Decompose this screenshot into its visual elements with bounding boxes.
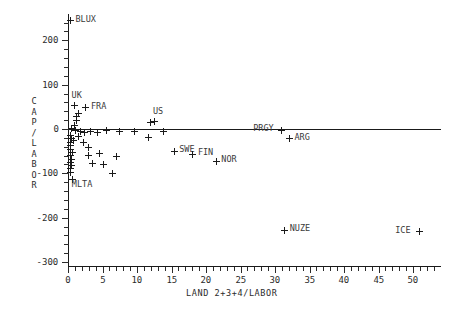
y-axis-tick-minor [64, 31, 69, 32]
x-axis-tick-minor [96, 267, 97, 271]
x-axis-tick-major [275, 267, 276, 273]
data-point [131, 128, 138, 135]
x-axis-tick-minor [220, 267, 221, 271]
data-point-nuze [281, 227, 288, 234]
x-axis-tick-minor [192, 267, 193, 271]
x-axis-tick-minor [234, 267, 235, 271]
x-axis-tick-major [137, 267, 138, 273]
data-point-swe [171, 148, 178, 155]
x-axis-tick-minor [434, 267, 435, 271]
x-axis-tick-minor [420, 267, 421, 271]
data-point-blux [67, 17, 74, 24]
x-axis-tick-minor [247, 267, 248, 271]
y-axis-tick-minor [64, 191, 69, 192]
y-axis-tick-minor [64, 253, 69, 254]
y-axis-tick-major [62, 262, 69, 263]
data-point-label: PRGY [253, 123, 273, 133]
y-axis-tick-major [62, 218, 69, 219]
x-axis-tick-minor [178, 267, 179, 271]
y-axis-tick-minor [64, 111, 69, 112]
data-point-arg [286, 135, 293, 142]
y-axis-tick-major [62, 40, 69, 41]
x-axis-tick-minor [144, 267, 145, 271]
x-axis-tick-major [68, 267, 69, 273]
x-axis-tick-major [241, 267, 242, 273]
x-axis-tick-minor [392, 267, 393, 271]
x-axis-tick-label: 45 [373, 275, 384, 285]
data-point [85, 144, 92, 151]
x-axis-tick-minor [351, 267, 352, 271]
x-axis-tick-minor [123, 267, 124, 271]
y-axis-title-char: C [28, 96, 40, 107]
data-point [103, 127, 110, 134]
y-axis-tick-label: 0 [53, 124, 58, 134]
y-axis-tick-minor [64, 200, 69, 201]
x-axis-tick-minor [75, 267, 76, 271]
y-axis-tick-minor [64, 209, 69, 210]
data-point [85, 152, 92, 159]
x-axis-tick-minor [268, 267, 269, 271]
x-axis-tick-minor [337, 267, 338, 271]
y-axis-tick-minor [64, 94, 69, 95]
x-axis-tick-major [103, 267, 104, 273]
x-axis-tick-minor [130, 267, 131, 271]
y-axis-tick-minor [64, 49, 69, 50]
x-axis-tick-minor [109, 267, 110, 271]
x-axis-tick-minor [151, 267, 152, 271]
x-axis-title: LAND 2+3+4/LABOR [186, 288, 277, 298]
y-axis-tick-label: -300 [37, 257, 59, 267]
x-axis-tick-label: 30 [269, 275, 280, 285]
y-axis-title-char: L [28, 138, 40, 149]
data-point-uk [71, 102, 78, 109]
y-axis-tick-minor [64, 58, 69, 59]
x-axis-tick-minor [261, 267, 262, 271]
x-axis-tick-minor [358, 267, 359, 271]
x-axis-tick-label: 35 [304, 275, 315, 285]
y-axis-tick-minor [64, 76, 69, 77]
x-axis-tick-minor [254, 267, 255, 271]
data-point [113, 153, 120, 160]
data-point-fin [189, 151, 196, 158]
y-axis-title-char: A [28, 107, 40, 118]
x-axis-tick-minor [427, 267, 428, 271]
x-axis-tick-label: 25 [235, 275, 246, 285]
data-point-ice [416, 228, 423, 235]
x-axis-tick-minor [89, 267, 90, 271]
data-point [96, 150, 103, 157]
y-axis-tick-minor [64, 120, 69, 121]
x-axis-tick-minor [323, 267, 324, 271]
y-axis-tick-major [62, 85, 69, 86]
x-axis-tick-major [413, 267, 414, 273]
data-point-label: NOR [221, 154, 236, 164]
data-point [147, 119, 154, 126]
x-axis-tick-minor [227, 267, 228, 271]
y-axis-tick-minor [64, 67, 69, 68]
data-point [87, 128, 94, 135]
data-point-fra [82, 104, 89, 111]
y-axis-title-char: B [28, 159, 40, 170]
y-axis-title-char: P [28, 117, 40, 128]
y-axis-tick-label: 200 [42, 35, 58, 45]
data-point [100, 161, 107, 168]
y-axis-tick-minor [64, 244, 69, 245]
data-point-label: FIN [198, 147, 213, 157]
x-axis-tick-label: 15 [166, 275, 177, 285]
x-axis-tick-label: 5 [100, 275, 105, 285]
x-axis-tick-label: 50 [407, 275, 418, 285]
x-axis-tick-major [344, 267, 345, 273]
x-axis-tick-minor [303, 267, 304, 271]
y-axis-tick-minor [64, 182, 69, 183]
data-point-label: ARG [294, 132, 309, 142]
x-axis-tick-major [172, 267, 173, 273]
data-point-label: US [153, 106, 163, 116]
x-axis-tick-minor [372, 267, 373, 271]
data-point [94, 129, 101, 136]
y-axis-tick-minor [64, 102, 69, 103]
x-axis-tick-minor [82, 267, 83, 271]
y-axis-tick-label: 100 [42, 80, 58, 90]
x-axis-tick-minor [406, 267, 407, 271]
x-axis-tick-minor [365, 267, 366, 271]
y-axis-tick-minor [64, 227, 69, 228]
x-axis-tick-minor [282, 267, 283, 271]
x-axis-tick-minor [199, 267, 200, 271]
